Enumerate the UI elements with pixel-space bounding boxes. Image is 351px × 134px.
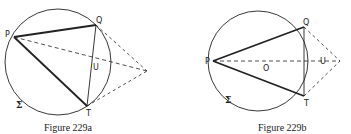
label-u: U: [320, 57, 326, 66]
label-p: P: [205, 57, 210, 66]
caption-229a: Figure 229a: [44, 122, 93, 133]
label-sigma: Σ: [225, 95, 231, 105]
figure-229a: P Q T U Σ Figure 229a: [5, 9, 147, 133]
label-t: T: [85, 109, 91, 118]
label-u: U: [93, 63, 99, 72]
dashed-p-to-pole: [14, 37, 147, 71]
tangent-q: [304, 27, 340, 61]
chord-pt: [213, 61, 304, 96]
label-q: Q: [96, 16, 102, 25]
caption-229b: Figure 229b: [258, 122, 307, 133]
diagram-canvas: P Q T U Σ Figure 229a P Q T U O Σ Figure…: [0, 0, 351, 134]
chord-pq: [14, 25, 96, 37]
label-sigma: Σ: [16, 100, 22, 110]
chord-pq: [213, 27, 304, 61]
label-t: T: [303, 99, 309, 108]
label-q: Q: [303, 18, 309, 27]
label-o: O: [263, 64, 269, 73]
tangent-t: [87, 71, 147, 106]
chord-pt: [14, 37, 87, 106]
tangent-q: [96, 25, 147, 71]
label-p: P: [5, 30, 10, 39]
figure-229b: P Q T U O Σ Figure 229b: [205, 11, 340, 133]
tangent-t: [304, 61, 340, 96]
